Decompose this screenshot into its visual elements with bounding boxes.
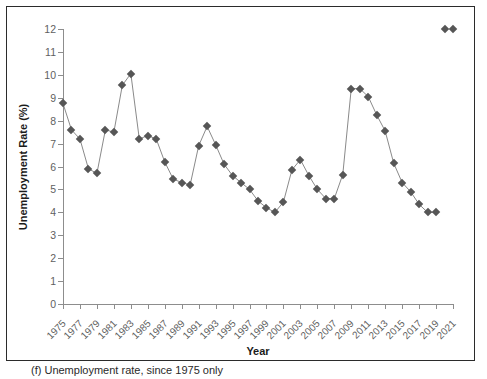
y-tick-label: 10 xyxy=(44,69,56,81)
x-axis-title: Year xyxy=(63,345,453,357)
x-tick xyxy=(385,304,386,309)
x-tick xyxy=(131,304,132,309)
y-axis-title: Unemployment Rate (%) xyxy=(15,29,31,304)
x-tick xyxy=(419,304,420,309)
y-tick-label: 5 xyxy=(50,183,56,195)
figure-panel: Unemployment Rate (%) 0123456789101112 1… xyxy=(6,6,475,361)
y-tick-label: 2 xyxy=(50,252,56,264)
y-tick-label: 7 xyxy=(50,138,56,150)
x-tick xyxy=(334,304,335,309)
y-tick-label: 6 xyxy=(50,161,56,173)
x-tick xyxy=(182,304,183,309)
x-tick xyxy=(368,304,369,309)
y-tick-label: 12 xyxy=(44,23,56,35)
x-tick xyxy=(453,304,454,309)
y-tick-label: 9 xyxy=(50,92,56,104)
y-axis-title-label: Unemployment Rate (%) xyxy=(17,103,29,230)
x-axis-line xyxy=(63,304,453,305)
figure-caption: (f) Unemployment rate, since 1975 only xyxy=(31,364,223,376)
y-tick-label: 3 xyxy=(50,229,56,241)
x-tick xyxy=(436,304,437,309)
y-tick-label: 11 xyxy=(45,46,56,58)
x-tick xyxy=(317,304,318,309)
x-tick xyxy=(165,304,166,309)
x-tick xyxy=(216,304,217,309)
x-tick xyxy=(402,304,403,309)
x-tick xyxy=(250,304,251,309)
x-tick xyxy=(300,304,301,309)
y-tick-label: 0 xyxy=(50,298,56,310)
y-tick-label: 4 xyxy=(50,206,56,218)
x-tick xyxy=(266,304,267,309)
y-tick-label: 1 xyxy=(50,275,56,287)
x-tick xyxy=(80,304,81,309)
x-tick xyxy=(63,304,64,309)
x-tick xyxy=(114,304,115,309)
x-tick xyxy=(199,304,200,309)
x-tick xyxy=(283,304,284,309)
x-tick xyxy=(148,304,149,309)
x-tick xyxy=(351,304,352,309)
x-tick xyxy=(97,304,98,309)
y-tick-label: 8 xyxy=(50,115,56,127)
plot-area: 0123456789101112 19751977197919811983198… xyxy=(63,29,453,304)
x-tick xyxy=(233,304,234,309)
